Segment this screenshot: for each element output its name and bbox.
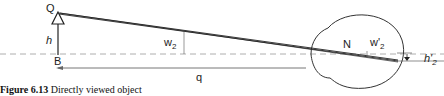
label-w2: w2 xyxy=(163,36,177,51)
label-h: h xyxy=(46,34,52,46)
figure-caption: Figure 6.13 Directly viewed object xyxy=(0,84,142,95)
label-distance-q: q xyxy=(196,71,202,83)
label-b: B xyxy=(54,55,61,67)
directly-viewed-object-diagram: Q h B w2 N w'2 h'2 q Figure 6.13 Directl… xyxy=(0,0,444,96)
label-n: N xyxy=(343,38,351,50)
label-w2-prime: w'2 xyxy=(369,36,385,51)
retinal-image-arrowhead xyxy=(404,57,410,61)
label-q-point: Q xyxy=(46,2,55,14)
